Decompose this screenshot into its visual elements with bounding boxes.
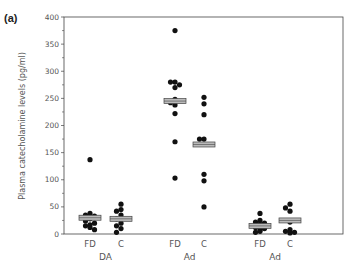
x-category-label: C (201, 239, 207, 249)
svg-text:Plasma catecholamine levels (p: Plasma catecholamine levels (pg/ml) (18, 52, 27, 200)
data-point (114, 230, 119, 235)
data-point (201, 95, 206, 100)
y-tick-label: 300 (45, 67, 60, 76)
data-point (172, 111, 177, 116)
series-ad-c (279, 202, 301, 236)
y-axis-title: Plasma catecholamine levels (pg/ml) (18, 52, 27, 200)
x-group-label: Ad (184, 252, 196, 262)
data-point (92, 227, 97, 232)
x-group-label: Ad (269, 252, 281, 262)
x-axis-labels: FDCDAFDCAdFDCAd (84, 239, 293, 262)
data-point (92, 221, 97, 226)
y-tick-label: 100 (45, 175, 60, 184)
data-point (83, 223, 88, 228)
data-point (287, 202, 292, 207)
data-point (87, 225, 92, 230)
data-point (283, 205, 288, 210)
data-point (201, 112, 206, 117)
plot-frame (64, 17, 343, 234)
series-ad-fd (249, 211, 271, 235)
data-point (168, 80, 173, 85)
x-category-label: FD (254, 239, 266, 249)
series-ad-c (193, 95, 215, 210)
y-tick-label: 200 (45, 121, 60, 130)
y-tick-label: 50 (49, 202, 59, 211)
data-point (172, 176, 177, 181)
y-axis: 050100150200250300350400 (45, 13, 64, 239)
series-da-c (110, 202, 132, 235)
data-point (201, 178, 206, 183)
data-point (114, 209, 119, 214)
data-point (172, 85, 177, 90)
data-point (201, 101, 206, 106)
series-da-fd (79, 157, 101, 232)
data-point (287, 230, 292, 235)
data-point (257, 211, 262, 216)
data-point (257, 229, 262, 234)
scatter-chart: (a) Plasma catecholamine levels (pg/ml) … (0, 0, 361, 270)
data-point (172, 139, 177, 144)
data-point (197, 136, 202, 141)
data-point (292, 230, 297, 235)
data-point (253, 230, 258, 235)
data-point (114, 223, 119, 228)
data-point (177, 82, 182, 87)
data-point (201, 172, 206, 177)
data-point (172, 80, 177, 85)
x-category-label: FD (169, 239, 181, 249)
x-category-label: C (118, 239, 124, 249)
x-group-label: DA (99, 252, 113, 262)
x-category-label: FD (84, 239, 96, 249)
x-category-label: C (287, 239, 293, 249)
data-point (87, 157, 92, 162)
series-ad-fd (164, 28, 186, 181)
y-tick-label: 400 (45, 13, 60, 22)
y-tick-label: 250 (45, 94, 60, 103)
y-tick-label: 150 (45, 148, 60, 157)
y-tick-label: 350 (45, 40, 60, 49)
data-point (172, 28, 177, 33)
data-point (201, 136, 206, 141)
data-point (118, 207, 123, 212)
data-point (287, 209, 292, 214)
data-point (201, 204, 206, 209)
y-tick-label: 0 (54, 230, 59, 239)
data-points (79, 28, 301, 236)
data-point (283, 229, 288, 234)
data-point (118, 226, 123, 231)
data-point (118, 202, 123, 207)
panel-label: (a) (4, 12, 18, 24)
